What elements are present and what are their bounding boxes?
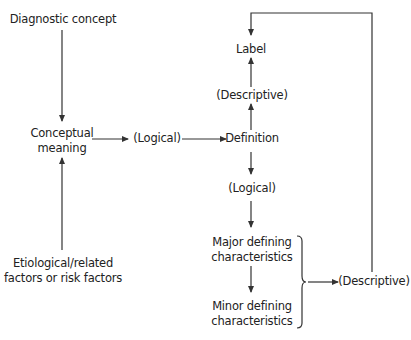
node-definition: Definition [222,131,282,146]
node-label: (Descriptive) [338,274,409,288]
node-label: Major defining [200,235,304,250]
node-minor-defining-characteristics: Minor defining characteristics [200,299,304,329]
node-label: factors or risk factors [4,271,122,286]
diagnostic-concept-diagram: Diagnostic concept Conceptual meaning (L… [0,0,411,340]
node-label: characteristics [200,314,304,329]
node-label: (Logical) [228,181,275,195]
node-etiological-factors: Etiological/related factors or risk fact… [4,256,122,286]
node-label: (Descriptive) [216,88,287,102]
node-label: Definition [225,131,279,145]
node-conceptual-meaning: Conceptual meaning [22,126,102,156]
node-label: Label [226,42,276,57]
node-diagnostic-concept: Diagnostic concept [4,12,122,27]
node-label: characteristics [200,250,304,265]
node-descriptive-1: (Descriptive) [214,88,290,103]
node-label: Minor defining [200,299,304,314]
node-logical-2: (Logical) [222,181,282,196]
node-label: Diagnostic concept [10,12,117,26]
node-label-text: Label [236,42,266,56]
node-label: Conceptual [22,126,102,141]
node-major-defining-characteristics: Major defining characteristics [200,235,304,265]
node-descriptive-2: (Descriptive) [336,274,411,289]
node-label: meaning [22,141,102,156]
node-logical-1: (Logical) [130,131,184,146]
node-label: Etiological/related [4,256,122,271]
node-label: (Logical) [133,131,180,145]
connector-lines [0,0,411,340]
